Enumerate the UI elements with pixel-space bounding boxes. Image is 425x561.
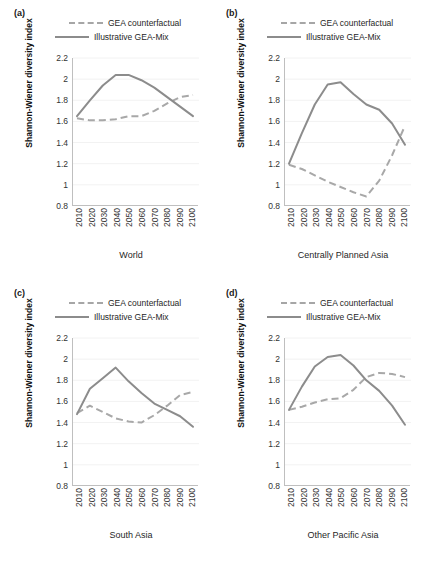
legend-label-gea-counterfactual: GEA counterfactual [108, 18, 181, 28]
x-tick-label: 2040 [324, 488, 334, 507]
y-tick-label: 1.6 [268, 396, 280, 406]
y-tick-label: 2.2 [268, 53, 280, 63]
legend-item-gea-counterfactual: GEA counterfactual [55, 296, 205, 310]
series-line-illustrative-gea-mix [289, 355, 405, 425]
y-axis-ticks: 2.221.81.61.41.210.8 [252, 52, 280, 208]
chart-panel-d: (d) GEA counterfactual Illustrative GEA-… [212, 280, 424, 560]
x-tick-label: 2070 [362, 208, 372, 227]
x-tick-label: 2060 [137, 488, 147, 507]
y-tick-label: 2.2 [268, 333, 280, 343]
x-tick-label: 2040 [112, 208, 122, 227]
x-tick-label: 2030 [311, 208, 321, 227]
dashed-line-icon [69, 298, 103, 308]
legend-b: GEA counterfactual Illustrative GEA-Mix [267, 16, 417, 44]
series-canvas-a [73, 58, 199, 206]
chart-panel-a: (a) GEA counterfactual Illustrative GEA-… [0, 0, 212, 280]
x-tick-label: 2100 [399, 488, 409, 507]
x-tick-label: 2070 [150, 208, 160, 227]
chart-panel-c: (c) GEA counterfactual Illustrative GEA-… [0, 280, 212, 560]
legend-label-illustrative-gea-mix: Illustrative GEA-Mix [94, 312, 169, 322]
legend-label-gea-counterfactual: GEA counterfactual [320, 298, 393, 308]
x-axis-ticks: 2010202020302040205020602070208020902100 [72, 488, 198, 528]
x-axis-ticks: 2010202020302040205020602070208020902100 [284, 208, 410, 248]
legend-a: GEA counterfactual Illustrative GEA-Mix [55, 16, 205, 44]
y-tick-label: 0.8 [56, 481, 68, 491]
y-tick-label: 1.8 [268, 95, 280, 105]
y-tick-label: 1 [275, 460, 280, 470]
legend-item-gea-counterfactual: GEA counterfactual [267, 16, 417, 30]
x-tick-label: 2100 [187, 208, 197, 227]
y-tick-label: 1 [63, 180, 68, 190]
plot-area-d [284, 338, 410, 486]
series-line-illustrative-gea-mix [289, 82, 405, 163]
y-tick-label: 2 [63, 74, 68, 84]
x-tick-label: 2030 [99, 208, 109, 227]
x-axis-label-b: Centrally Planned Asia [268, 250, 418, 260]
chart-panel-b: (b) GEA counterfactual Illustrative GEA-… [212, 0, 424, 280]
y-tick-label: 1.6 [56, 396, 68, 406]
x-tick-label: 2060 [137, 208, 147, 227]
legend-item-illustrative-gea-mix: Illustrative GEA-Mix [55, 30, 205, 44]
x-tick-label: 2040 [324, 208, 334, 227]
x-tick-label: 2090 [175, 488, 185, 507]
y-tick-label: 0.8 [56, 201, 68, 211]
x-axis-label-a: World [56, 250, 206, 260]
y-tick-label: 1 [275, 180, 280, 190]
x-tick-label: 2090 [387, 488, 397, 507]
solid-line-icon [55, 312, 89, 322]
y-axis-label: Shannon-Wiener diversity index [24, 8, 34, 158]
solid-line-icon [267, 312, 301, 322]
series-line-gea-counterfactual [77, 392, 193, 423]
dashed-line-icon [69, 18, 103, 28]
y-tick-label: 1.8 [268, 375, 280, 385]
legend-item-illustrative-gea-mix: Illustrative GEA-Mix [267, 30, 417, 44]
solid-line-icon [55, 32, 89, 42]
y-tick-label: 0.8 [268, 481, 280, 491]
x-tick-label: 2100 [187, 488, 197, 507]
x-tick-label: 2010 [286, 208, 296, 227]
dashed-line-icon [281, 298, 315, 308]
x-tick-label: 2100 [399, 208, 409, 227]
legend-item-gea-counterfactual: GEA counterfactual [267, 296, 417, 310]
x-axis-label-d: Other Pacific Asia [268, 530, 418, 540]
legend-c: GEA counterfactual Illustrative GEA-Mix [55, 296, 205, 324]
x-tick-label: 2080 [374, 488, 384, 507]
x-tick-label: 2080 [162, 488, 172, 507]
y-tick-label: 1.2 [268, 439, 280, 449]
x-axis-ticks: 2010202020302040205020602070208020902100 [72, 208, 198, 248]
y-tick-label: 1.2 [56, 159, 68, 169]
y-tick-label: 1.8 [56, 375, 68, 385]
y-axis-label: Shannon-Wiener diversity index [236, 8, 246, 158]
y-tick-label: 1.4 [56, 138, 68, 148]
x-tick-label: 2050 [336, 488, 346, 507]
series-canvas-d [285, 338, 411, 486]
dashed-line-icon [281, 18, 315, 28]
y-tick-label: 1.4 [268, 418, 280, 428]
x-axis-ticks: 2010202020302040205020602070208020902100 [284, 488, 410, 528]
y-axis-ticks: 2.221.81.61.41.210.8 [252, 332, 280, 488]
legend-item-gea-counterfactual: GEA counterfactual [55, 16, 205, 30]
y-tick-label: 1.8 [56, 95, 68, 105]
y-tick-label: 1 [63, 460, 68, 470]
series-canvas-c [73, 338, 199, 486]
y-tick-label: 2.2 [56, 53, 68, 63]
y-axis-ticks: 2.221.81.61.41.210.8 [40, 52, 68, 208]
legend-label-gea-counterfactual: GEA counterfactual [320, 18, 393, 28]
x-axis-label-c: South Asia [56, 530, 206, 540]
x-tick-label: 2010 [74, 488, 84, 507]
x-tick-label: 2010 [286, 488, 296, 507]
y-tick-label: 1.4 [268, 138, 280, 148]
plot-area-b [284, 58, 410, 206]
y-tick-label: 1.2 [268, 159, 280, 169]
y-tick-label: 0.8 [268, 201, 280, 211]
x-tick-label: 2030 [311, 488, 321, 507]
x-tick-label: 2070 [150, 488, 160, 507]
y-tick-label: 1.2 [56, 439, 68, 449]
x-tick-label: 2040 [112, 488, 122, 507]
series-line-illustrative-gea-mix [77, 75, 193, 116]
x-tick-label: 2030 [99, 488, 109, 507]
y-tick-label: 1.6 [56, 116, 68, 126]
x-tick-label: 2080 [374, 208, 384, 227]
series-line-illustrative-gea-mix [77, 368, 193, 427]
y-tick-label: 1.6 [268, 116, 280, 126]
